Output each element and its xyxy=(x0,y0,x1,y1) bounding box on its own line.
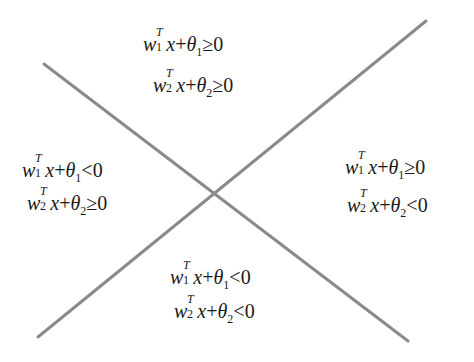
relation-sign: < xyxy=(81,159,92,181)
x-symbol: x xyxy=(176,74,185,96)
rhs-value: 0 xyxy=(415,156,425,178)
weight-symbol: wT2 xyxy=(174,301,187,321)
rhs-value: 0 xyxy=(213,33,223,55)
rhs-value: 0 xyxy=(245,300,255,322)
weight-symbol: wT1 xyxy=(170,267,183,287)
plus-sign: + xyxy=(379,194,390,216)
theta-symbol: θ xyxy=(391,194,401,216)
x-symbol: x xyxy=(370,194,379,216)
rhs-value: 0 xyxy=(93,159,103,181)
theta-subscript: 1 xyxy=(196,45,202,59)
x-symbol: x xyxy=(166,33,175,55)
weight-symbol: wT2 xyxy=(347,195,360,215)
theta-subscript: 2 xyxy=(80,204,86,218)
relation-sign: ≥ xyxy=(202,33,213,55)
weight-symbol: wT2 xyxy=(153,75,166,95)
rhs-value: 0 xyxy=(223,74,233,96)
inequality-bottom-2: wT2x+θ2<0 xyxy=(174,301,255,321)
plus-sign: + xyxy=(377,156,388,178)
plus-sign: + xyxy=(202,266,213,288)
relation-sign: < xyxy=(229,266,240,288)
rhs-value: 0 xyxy=(97,192,107,214)
inequality-right-1: wT1x+θ1≥0 xyxy=(345,157,425,177)
x-symbol: x xyxy=(368,156,377,178)
theta-subscript: 2 xyxy=(206,86,212,100)
weight-symbol: wT1 xyxy=(345,157,358,177)
plus-sign: + xyxy=(175,33,186,55)
relation-sign: < xyxy=(406,194,417,216)
theta-symbol: θ xyxy=(389,156,399,178)
plus-sign: + xyxy=(206,300,217,322)
x-symbol: x xyxy=(45,159,54,181)
relation-sign: ≥ xyxy=(212,74,223,96)
plus-sign: + xyxy=(54,159,65,181)
plus-sign: + xyxy=(185,74,196,96)
x-symbol: x xyxy=(193,266,202,288)
theta-subscript: 2 xyxy=(227,312,233,326)
theta-symbol: θ xyxy=(197,74,207,96)
relation-sign: ≥ xyxy=(404,156,415,178)
theta-symbol: θ xyxy=(71,192,81,214)
x-symbol: x xyxy=(197,300,206,322)
decision-boundary-diagram: wT1x+θ1≥0 wT2x+θ2≥0 wT1x+θ1<0 wT2x+θ2≥0 … xyxy=(0,0,474,362)
inequality-right-2: wT2x+θ2<0 xyxy=(347,195,428,215)
theta-symbol: θ xyxy=(218,300,228,322)
inequality-top-1: wT1x+θ1≥0 xyxy=(143,34,223,54)
theta-symbol: θ xyxy=(66,159,76,181)
relation-sign: ≥ xyxy=(86,192,97,214)
theta-subscript: 1 xyxy=(223,278,229,292)
theta-symbol: θ xyxy=(214,266,224,288)
theta-subscript: 1 xyxy=(398,168,404,182)
inequality-bottom-1: wT1x+θ1<0 xyxy=(170,267,251,287)
inequality-left-1: wT1x+θ1<0 xyxy=(22,160,103,180)
theta-symbol: θ xyxy=(187,33,197,55)
inequality-left-2: wT2x+θ2≥0 xyxy=(27,193,107,213)
inequality-top-2: wT2x+θ2≥0 xyxy=(153,75,233,95)
theta-subscript: 1 xyxy=(75,171,81,185)
x-symbol: x xyxy=(50,192,59,214)
theta-subscript: 2 xyxy=(400,206,406,220)
relation-sign: < xyxy=(233,300,244,322)
plus-sign: + xyxy=(59,192,70,214)
weight-symbol: wT2 xyxy=(27,193,40,213)
rhs-value: 0 xyxy=(418,194,428,216)
weight-symbol: wT1 xyxy=(22,160,35,180)
weight-symbol: wT1 xyxy=(143,34,156,54)
rhs-value: 0 xyxy=(241,266,251,288)
